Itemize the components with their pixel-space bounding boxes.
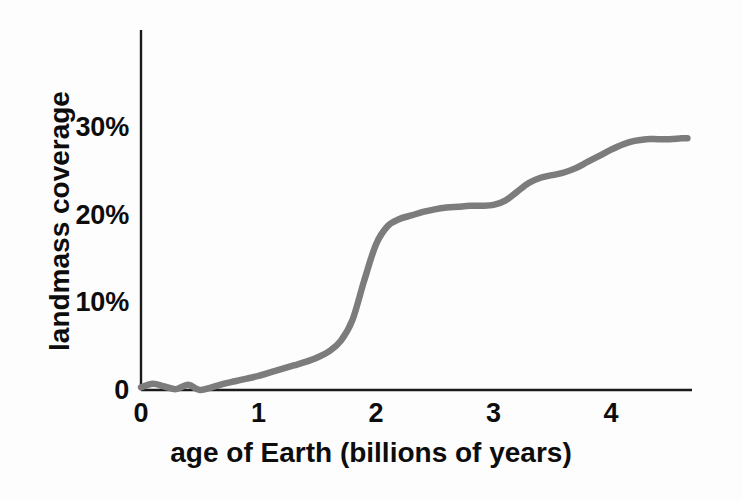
x-tick-label-1: 1 <box>251 398 266 429</box>
x-tick-label-2: 2 <box>369 398 384 429</box>
data-series-line <box>141 138 687 390</box>
x-axis-title: age of Earth (billions of years) <box>0 437 742 469</box>
chart-container: 0 10% 20% 30% 0 1 2 3 4 age of Earth (bi… <box>0 0 742 500</box>
x-tick-label-4: 4 <box>604 398 619 429</box>
x-tick-label-0: 0 <box>134 398 149 429</box>
x-tick-label-3: 3 <box>486 398 501 429</box>
y-axis-title: landmass coverage <box>44 56 76 386</box>
